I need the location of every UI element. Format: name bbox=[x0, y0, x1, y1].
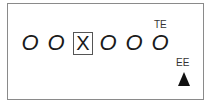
up-triangle-icon bbox=[178, 72, 190, 86]
ee-label: EE bbox=[176, 58, 189, 68]
selected-digit-box[interactable]: X bbox=[73, 32, 93, 55]
te-label: TE bbox=[154, 20, 167, 30]
digit-2: O bbox=[47, 31, 65, 55]
digit-1: O bbox=[21, 31, 39, 55]
digit-4: O bbox=[99, 31, 117, 55]
digit-6: O bbox=[151, 31, 169, 55]
digit-5: O bbox=[125, 31, 143, 55]
